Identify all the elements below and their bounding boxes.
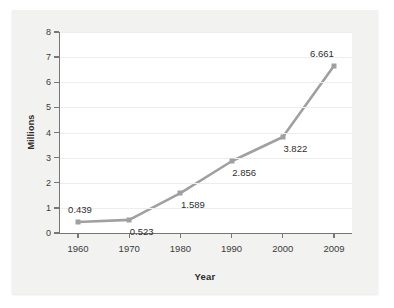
plot-area: 0.4390.5231.5892.8563.8226.661 (60, 32, 352, 233)
y-axis-tick (54, 31, 59, 32)
chart-card: Millions Year 0.4390.5231.5892.8563.8226… (12, 10, 378, 294)
data-point-marker[interactable] (229, 159, 234, 164)
data-point-marker[interactable] (76, 219, 81, 224)
gridline (60, 32, 352, 33)
y-axis-title: Millions (26, 114, 36, 149)
y-axis-tick (54, 56, 59, 57)
y-axis-tick-label: 5 (46, 102, 51, 112)
y-axis-tick (54, 107, 59, 108)
plot-frame: 0.4390.5231.5892.8563.8226.661 012345678… (59, 32, 352, 234)
data-point-label: 2.856 (232, 167, 256, 178)
y-axis-tick (54, 232, 59, 233)
gridline (60, 158, 352, 159)
gridline (60, 208, 352, 209)
gridline (60, 57, 352, 58)
x-axis-title: Year (195, 271, 216, 282)
y-axis-tick-label: 0 (46, 228, 51, 238)
data-point-label: 6.661 (310, 48, 334, 59)
y-axis-tick-label: 7 (46, 52, 51, 62)
y-axis-tick-label: 2 (46, 178, 51, 188)
y-axis-tick (54, 82, 59, 83)
y-axis-tick (54, 207, 59, 208)
x-axis-tick-label: 1970 (119, 243, 140, 254)
data-point-marker[interactable] (127, 217, 132, 222)
x-axis-tick (180, 233, 181, 238)
y-axis-tick-label: 3 (46, 153, 51, 163)
x-axis-tick (129, 233, 130, 238)
data-point-label: 3.822 (283, 143, 307, 154)
data-point-label: 0.523 (130, 226, 154, 237)
y-axis-tick-label: 6 (46, 77, 51, 87)
x-axis-tick-label: 2009 (323, 243, 344, 254)
y-axis-tick (54, 132, 59, 133)
y-axis-tick (54, 182, 59, 183)
data-point-label: 1.589 (181, 199, 205, 210)
x-axis-tick-label: 1980 (170, 243, 191, 254)
data-point-marker[interactable] (280, 134, 285, 139)
y-axis-tick-label: 1 (46, 203, 51, 213)
x-axis-tick-label: 2000 (272, 243, 293, 254)
x-axis-tick (231, 233, 232, 238)
data-point-marker[interactable] (178, 191, 183, 196)
x-axis-tick (77, 233, 78, 238)
gridline (60, 133, 352, 134)
x-axis-tick (333, 233, 334, 238)
x-axis-tick (282, 233, 283, 238)
gridline (60, 183, 352, 184)
x-axis-tick-label: 1990 (221, 243, 242, 254)
y-axis-tick-label: 4 (46, 128, 51, 138)
data-point-label: 0.439 (68, 204, 92, 215)
y-axis-tick-label: 8 (46, 27, 51, 37)
data-point-marker[interactable] (332, 63, 337, 68)
gridline (60, 107, 352, 108)
gridline (60, 82, 352, 83)
y-axis-tick (54, 157, 59, 158)
x-axis-tick-label: 1960 (67, 243, 88, 254)
